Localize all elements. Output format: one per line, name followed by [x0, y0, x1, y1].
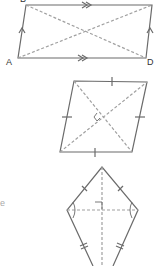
right-angle-icon-kite	[95, 202, 102, 209]
diagonal-ac	[18, 5, 152, 58]
vertex-label-b: B	[20, 0, 26, 4]
parallelogram	[18, 2, 153, 61]
cropped-edge-text: e	[0, 199, 5, 208]
rhombus-diagonal-1	[74, 81, 132, 152]
angle-arc-right-icon	[130, 202, 132, 218]
kite	[67, 167, 138, 266]
single-arrow-icon-right	[147, 28, 153, 33]
vertex-label-a: A	[6, 58, 12, 67]
vertex-label-d: D	[147, 58, 154, 67]
rhombus	[60, 77, 147, 157]
kite-outline	[67, 167, 138, 266]
quadrilaterals-diagram	[0, 0, 156, 266]
